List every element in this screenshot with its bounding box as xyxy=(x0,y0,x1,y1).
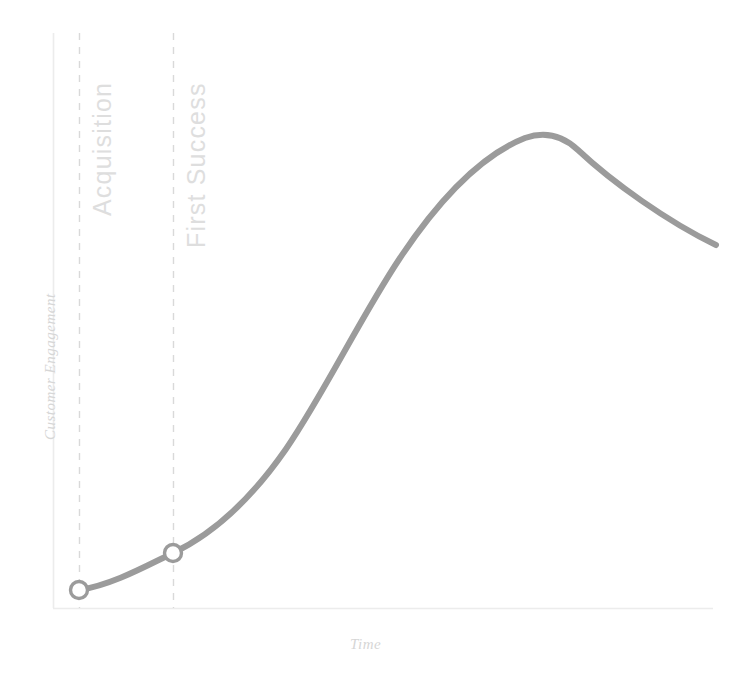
data-point-marker-acquisition xyxy=(71,582,88,599)
annotation-label-acquisition: Acquisition xyxy=(88,82,117,216)
data-point-marker-first-success xyxy=(165,545,182,562)
x-axis-label: Time xyxy=(350,636,381,653)
engagement-lifecycle-chart: Customer Engagement Time Acquisition Fir… xyxy=(0,0,752,692)
y-axis-label: Customer Engagement xyxy=(42,293,59,440)
engagement-curve xyxy=(79,135,716,590)
annotation-label-first-success: First Success xyxy=(182,82,211,248)
